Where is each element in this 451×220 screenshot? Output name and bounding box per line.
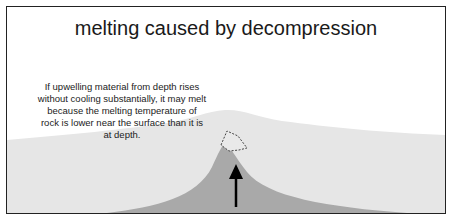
diagram-title: melting caused by decompression bbox=[7, 17, 445, 40]
diagram-caption: If upwelling material from depth rises w… bbox=[37, 81, 207, 141]
diagram-frame: melting caused by decompression If upwel… bbox=[6, 6, 446, 214]
